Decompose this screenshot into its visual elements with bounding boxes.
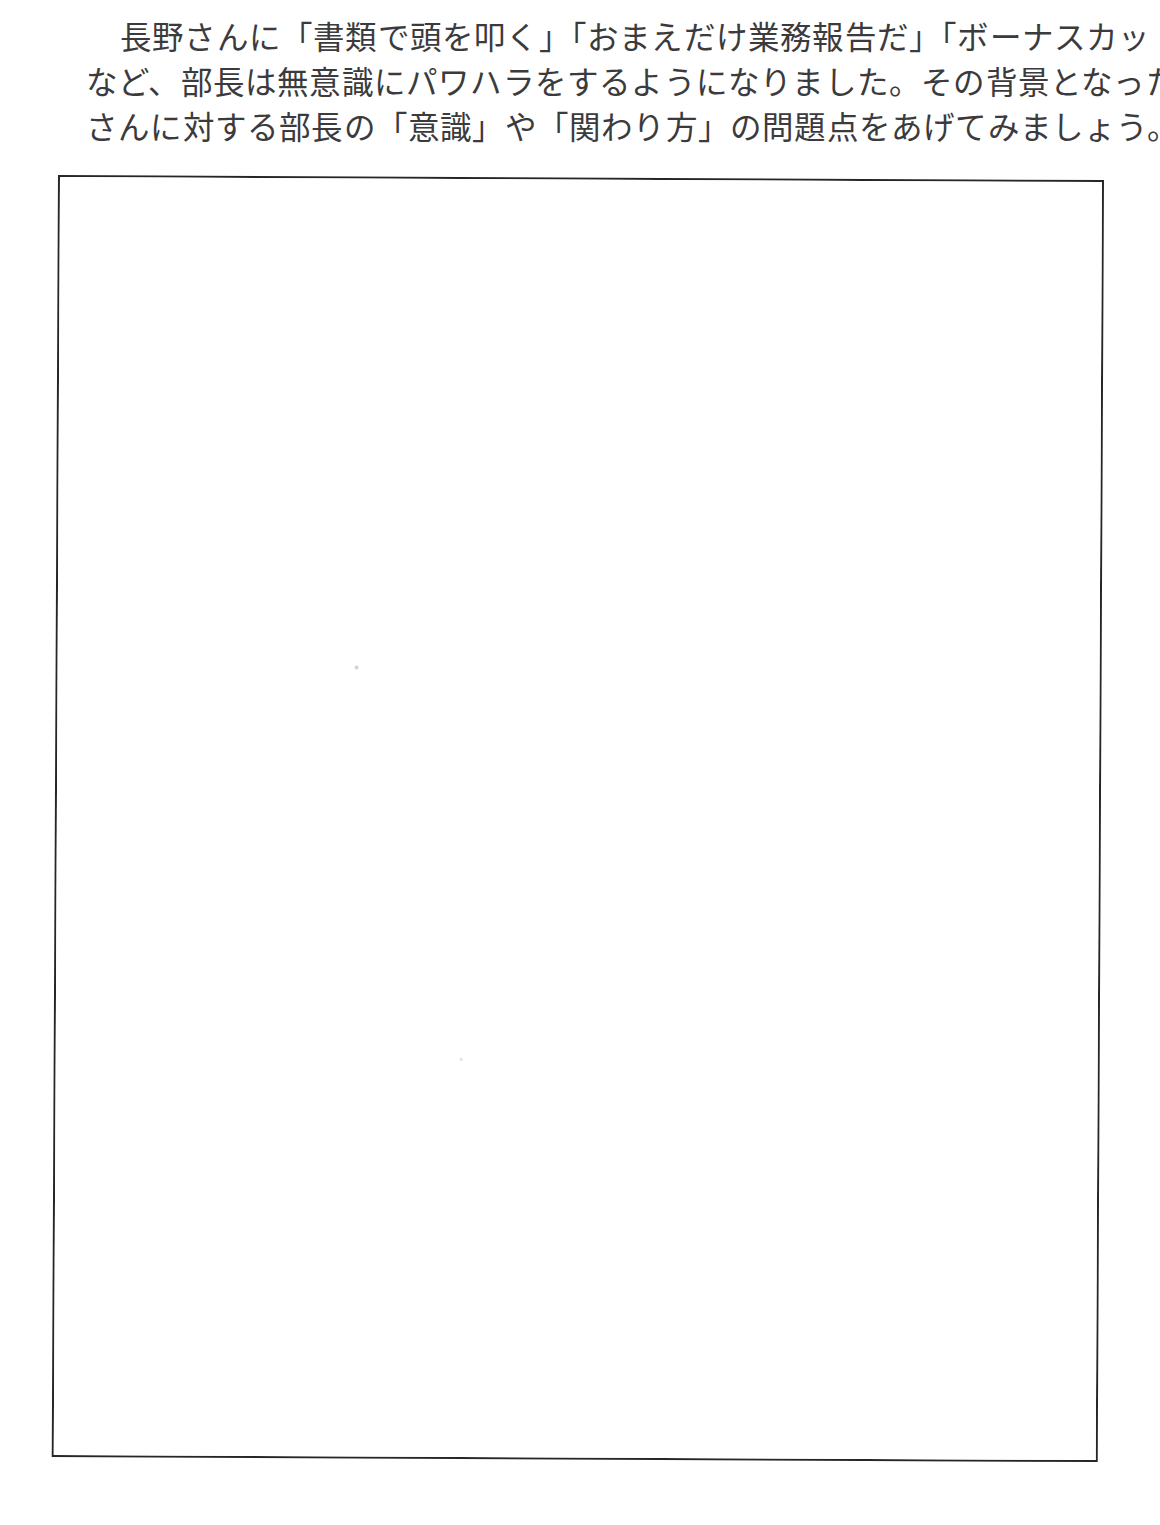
passage-line-3: さんに対する部長の「意識」や「関わり方」の問題点をあげてみましょう。 xyxy=(86,106,1126,151)
answer-box[interactable] xyxy=(52,175,1104,1462)
passage-line-2: など、部長は無意識にパワハラをするようになりました。その背景となった長野 xyxy=(86,61,1126,106)
passage-line-1: 長野さんに「書類で頭を叩く」「おまえだけ業務報告だ」「ボーナスカットだぞ」 xyxy=(86,16,1126,61)
answer-box-writing-area[interactable] xyxy=(54,177,1102,1460)
passage-paragraph: 長野さんに「書類で頭を叩く」「おまえだけ業務報告だ」「ボーナスカットだぞ」 など… xyxy=(86,16,1126,151)
scan-artifact-speck xyxy=(460,1058,463,1061)
page-root: 長野さんに「書類で頭を叩く」「おまえだけ業務報告だ」「ボーナスカットだぞ」 など… xyxy=(0,0,1160,1525)
scan-artifact-speck xyxy=(355,665,359,669)
